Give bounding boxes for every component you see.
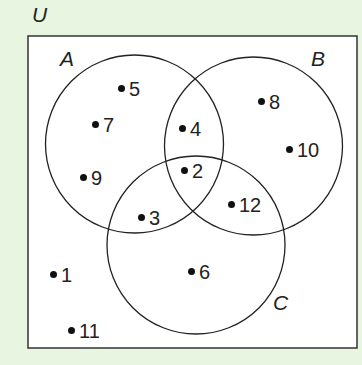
element-value: 1: [61, 264, 72, 286]
element-value: 10: [297, 139, 319, 161]
element-6: 6: [188, 262, 210, 282]
universe-label: U: [32, 5, 47, 25]
element-11: 11: [68, 321, 100, 341]
element-1: 1: [50, 265, 72, 285]
set-b-label: B: [311, 49, 325, 69]
element-2: 2: [181, 161, 203, 181]
element-value: 8: [269, 91, 280, 113]
element-value: 5: [129, 78, 140, 100]
element-8: 8: [258, 92, 280, 112]
element-value: 12: [239, 194, 261, 216]
element-value: 11: [79, 320, 100, 342]
element-value: 4: [190, 118, 201, 140]
element-value: 2: [192, 160, 203, 182]
element-value: 7: [103, 114, 114, 136]
set-a-label: A: [60, 49, 74, 69]
point-dot-icon: [258, 98, 265, 105]
point-dot-icon: [179, 125, 186, 132]
element-5: 5: [118, 79, 140, 99]
point-dot-icon: [50, 271, 57, 278]
element-12: 12: [228, 195, 261, 215]
element-value: 3: [149, 207, 160, 229]
point-dot-icon: [286, 146, 293, 153]
point-dot-icon: [228, 201, 235, 208]
point-dot-icon: [92, 121, 99, 128]
venn-shapes: [0, 0, 362, 365]
element-10: 10: [286, 140, 319, 160]
point-dot-icon: [118, 85, 125, 92]
point-dot-icon: [188, 268, 195, 275]
point-dot-icon: [138, 214, 145, 221]
element-value: 6: [199, 261, 210, 283]
element-9: 9: [80, 168, 102, 188]
set-c-label: C: [273, 293, 288, 313]
point-dot-icon: [68, 327, 75, 334]
element-3: 3: [138, 208, 160, 228]
point-dot-icon: [181, 167, 188, 174]
element-7: 7: [92, 115, 114, 135]
element-4: 4: [179, 119, 201, 139]
venn-diagram: U A B C 579423810126111: [0, 0, 362, 365]
universe-box: [28, 36, 357, 348]
element-value: 9: [91, 167, 102, 189]
point-dot-icon: [80, 174, 87, 181]
